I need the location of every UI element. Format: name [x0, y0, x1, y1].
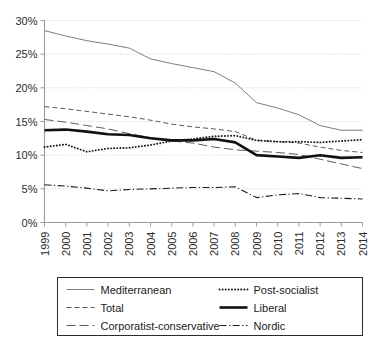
x-tick-label: 2001 — [81, 232, 93, 256]
x-tick-label: 2000 — [60, 232, 72, 256]
series-line-nordic — [45, 185, 363, 199]
series-line-corporatist-conservative — [45, 119, 363, 168]
x-tick-label: 2005 — [166, 232, 178, 256]
y-tick-label: 5% — [22, 183, 38, 195]
series-line-liberal — [45, 130, 363, 158]
x-tick-label: 2013 — [335, 232, 347, 256]
x-tick-label: 2006 — [187, 232, 199, 256]
y-tick-label: 25% — [15, 48, 37, 60]
legend-label-corporatist-conservative: Corporatist-conservative — [101, 320, 220, 332]
y-tick-label: 20% — [15, 82, 37, 94]
y-tick-label: 0% — [22, 217, 38, 229]
series-line-total — [45, 107, 363, 153]
series-line-mediterranean — [45, 31, 363, 131]
x-tick-label: 1999 — [39, 232, 51, 256]
x-axis: 1999200020012002200320042005200620072008… — [39, 223, 369, 256]
legend: MediterraneanPost-socialistTotalLiberalC… — [58, 278, 363, 336]
series-line-post-socialist — [45, 136, 363, 152]
legend-label-mediterranean: Mediterranean — [101, 284, 172, 296]
y-tick-label: 30% — [15, 15, 37, 27]
y-tick-label: 15% — [15, 116, 37, 128]
x-tick-label: 2010 — [272, 232, 284, 256]
x-tick-label: 2009 — [251, 232, 263, 256]
y-axis: 0%5%10%15%20%25%30% — [15, 15, 44, 229]
x-tick-label: 2007 — [208, 232, 220, 256]
x-tick-label: 2004 — [145, 232, 157, 256]
legend-label-total: Total — [101, 302, 124, 314]
x-tick-label: 2012 — [314, 232, 326, 256]
gridlines — [45, 21, 363, 189]
x-tick-label: 2002 — [102, 232, 114, 256]
x-tick-label: 2008 — [229, 232, 241, 256]
legend-label-nordic: Nordic — [254, 320, 286, 332]
series-group — [45, 31, 363, 199]
x-tick-label: 2014 — [357, 232, 369, 256]
chart-svg: 0%5%10%15%20%25%30%199920002001200220032… — [0, 0, 377, 343]
legend-label-liberal: Liberal — [254, 302, 287, 314]
y-tick-label: 10% — [15, 149, 37, 161]
x-tick-label: 2003 — [123, 232, 135, 256]
chart-container: 0%5%10%15%20%25%30%199920002001200220032… — [0, 0, 377, 343]
x-tick-label: 2011 — [293, 232, 305, 256]
legend-label-post-socialist: Post-socialist — [254, 284, 319, 296]
